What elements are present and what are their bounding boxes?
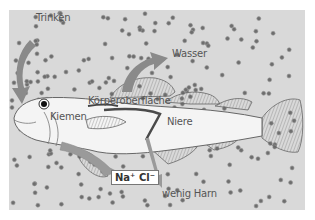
fish-pupil	[41, 101, 47, 107]
label-salt: Na⁺ Cl⁻	[111, 170, 159, 185]
label-body-surface: Körperoberfläche	[88, 96, 171, 106]
label-water: Wasser	[172, 49, 207, 59]
label-kidney: Niere	[167, 117, 192, 127]
label-drink: Trinken	[36, 13, 70, 23]
diagram-canvas	[0, 0, 315, 220]
label-gills: Kiemen	[50, 112, 87, 122]
label-urine: wenig Harn	[162, 189, 217, 199]
osmoregulation-diagram: Trinken Wasser Körperoberfläche Kiemen N…	[0, 0, 315, 220]
